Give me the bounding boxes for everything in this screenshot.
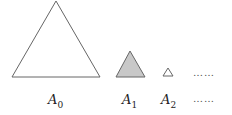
label-a1-sub: 1 — [131, 100, 137, 110]
label-a2-sub: 2 — [170, 100, 176, 110]
label-a0-letter: A — [48, 92, 57, 107]
label-a0: A0 — [48, 93, 63, 110]
triangle-a0 — [12, 1, 100, 77]
continuation-dots-top: …… — [193, 68, 215, 78]
label-a1: A1 — [122, 93, 137, 110]
label-a2-letter: A — [161, 92, 170, 107]
label-a0-sub: 0 — [57, 100, 63, 110]
triangle-a1 — [116, 51, 145, 77]
triangle-a2 — [163, 68, 173, 76]
label-a2: A2 — [161, 93, 176, 110]
continuation-dots-bottom: …… — [193, 94, 215, 104]
label-a1-letter: A — [122, 92, 131, 107]
